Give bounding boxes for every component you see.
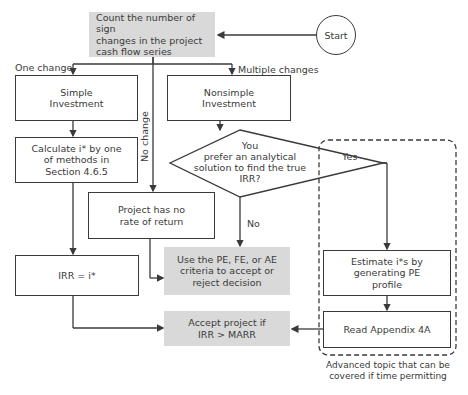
- nonsimple-investment-box: Nonsimple Investment: [167, 75, 291, 121]
- calculate-irr-box: Calculate i* by one of methods in Sectio…: [15, 137, 138, 183]
- start-node: Start: [316, 15, 356, 55]
- multiple-changes-label: Multiple changes: [238, 64, 319, 75]
- estimate-irr-box: Estimate i*s by generating PE profile: [323, 250, 451, 296]
- count-sign-changes-box: Count the number of sign changes in the …: [89, 12, 215, 57]
- use-pe-fe-ae-box: Use the PE, FE, or AE criteria to accept…: [164, 247, 290, 295]
- irr-equals-box: IRR = i*: [15, 255, 139, 296]
- advanced-topic-note: Advanced topic that can be covered if ti…: [320, 360, 456, 382]
- one-change-label: One change: [15, 62, 72, 73]
- no-rate-of-return-box: Project has no rate of return: [88, 192, 215, 239]
- no-change-label: No change: [139, 111, 150, 162]
- read-appendix-box: Read Appendix 4A: [323, 311, 451, 348]
- no-label: No: [247, 218, 260, 229]
- accept-project-box: Accept project if IRR > MARR: [164, 311, 290, 346]
- analytical-solution-decision: You prefer an analytical solution to fin…: [190, 140, 310, 184]
- simple-investment-box: Simple Investment: [15, 75, 138, 121]
- yes-label: Yes: [342, 151, 357, 162]
